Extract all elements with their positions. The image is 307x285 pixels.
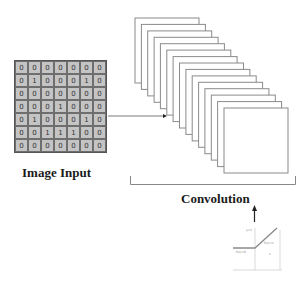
relu-right-label: f(x)=x (264, 241, 274, 245)
feature-map (224, 108, 288, 173)
feature-map-stack (135, 18, 288, 173)
up-arrow-icon (252, 205, 257, 222)
relu-y-label: y=x (246, 228, 252, 232)
convolution-label: Convolution (181, 191, 250, 207)
relu-left-label: f(x)=0 (236, 250, 246, 254)
diagram-graphics: y=x f(x)=0 f(x)=x x (0, 0, 307, 285)
relu-graph: y=x f(x)=0 f(x)=x x (233, 228, 282, 270)
convolution-bracket (131, 176, 296, 185)
relu-x-label: x (269, 252, 271, 256)
input-to-conv-arrow (108, 114, 167, 118)
